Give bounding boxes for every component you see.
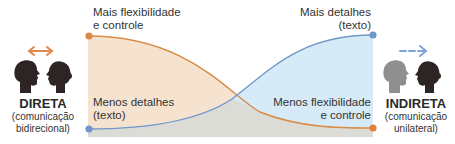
label-text: (texto) — [260, 19, 371, 32]
mode-indirect-subtitle-2: unilateral) — [377, 123, 455, 135]
label-bottom-left: Menos detalhes (texto) — [93, 96, 174, 122]
label-text: (texto) — [93, 109, 174, 122]
mode-indirect-title: INDIRETA — [377, 96, 455, 111]
flexibility-end-dot — [369, 124, 376, 131]
mode-direct: DIRETA (comunicação bidirecional) — [0, 96, 86, 134]
label-text: Mais flexibilidade — [93, 6, 181, 19]
flexibility-start-dot — [85, 32, 92, 39]
detail-start-dot — [85, 125, 92, 132]
two-heads-facing-icon — [14, 60, 72, 93]
label-bottom-right: Menos flexibilidade e controle — [240, 96, 371, 122]
label-top-left: Mais flexibilidade e controle — [93, 6, 181, 32]
dashed-arrow-icon — [400, 46, 426, 56]
label-text: Mais detalhes — [260, 6, 371, 19]
double-headed-arrow-icon — [29, 47, 52, 55]
mode-direct-title: DIRETA — [0, 96, 86, 111]
two-heads-one-way-icon — [383, 60, 441, 93]
detail-end-dot — [369, 31, 376, 38]
mode-direct-subtitle-2: bidirecional) — [0, 123, 86, 135]
mode-direct-subtitle-1: (comunicação — [0, 111, 86, 123]
label-text: Menos flexibilidade — [240, 96, 371, 109]
label-text: Menos detalhes — [93, 96, 174, 109]
label-text: e controle — [93, 19, 181, 32]
mode-indirect: INDIRETA (comunicação unilateral) — [377, 96, 455, 134]
label-top-right: Mais detalhes (texto) — [260, 6, 371, 32]
label-text: e controle — [240, 109, 371, 122]
mode-indirect-subtitle-1: (comunicação — [377, 111, 455, 123]
